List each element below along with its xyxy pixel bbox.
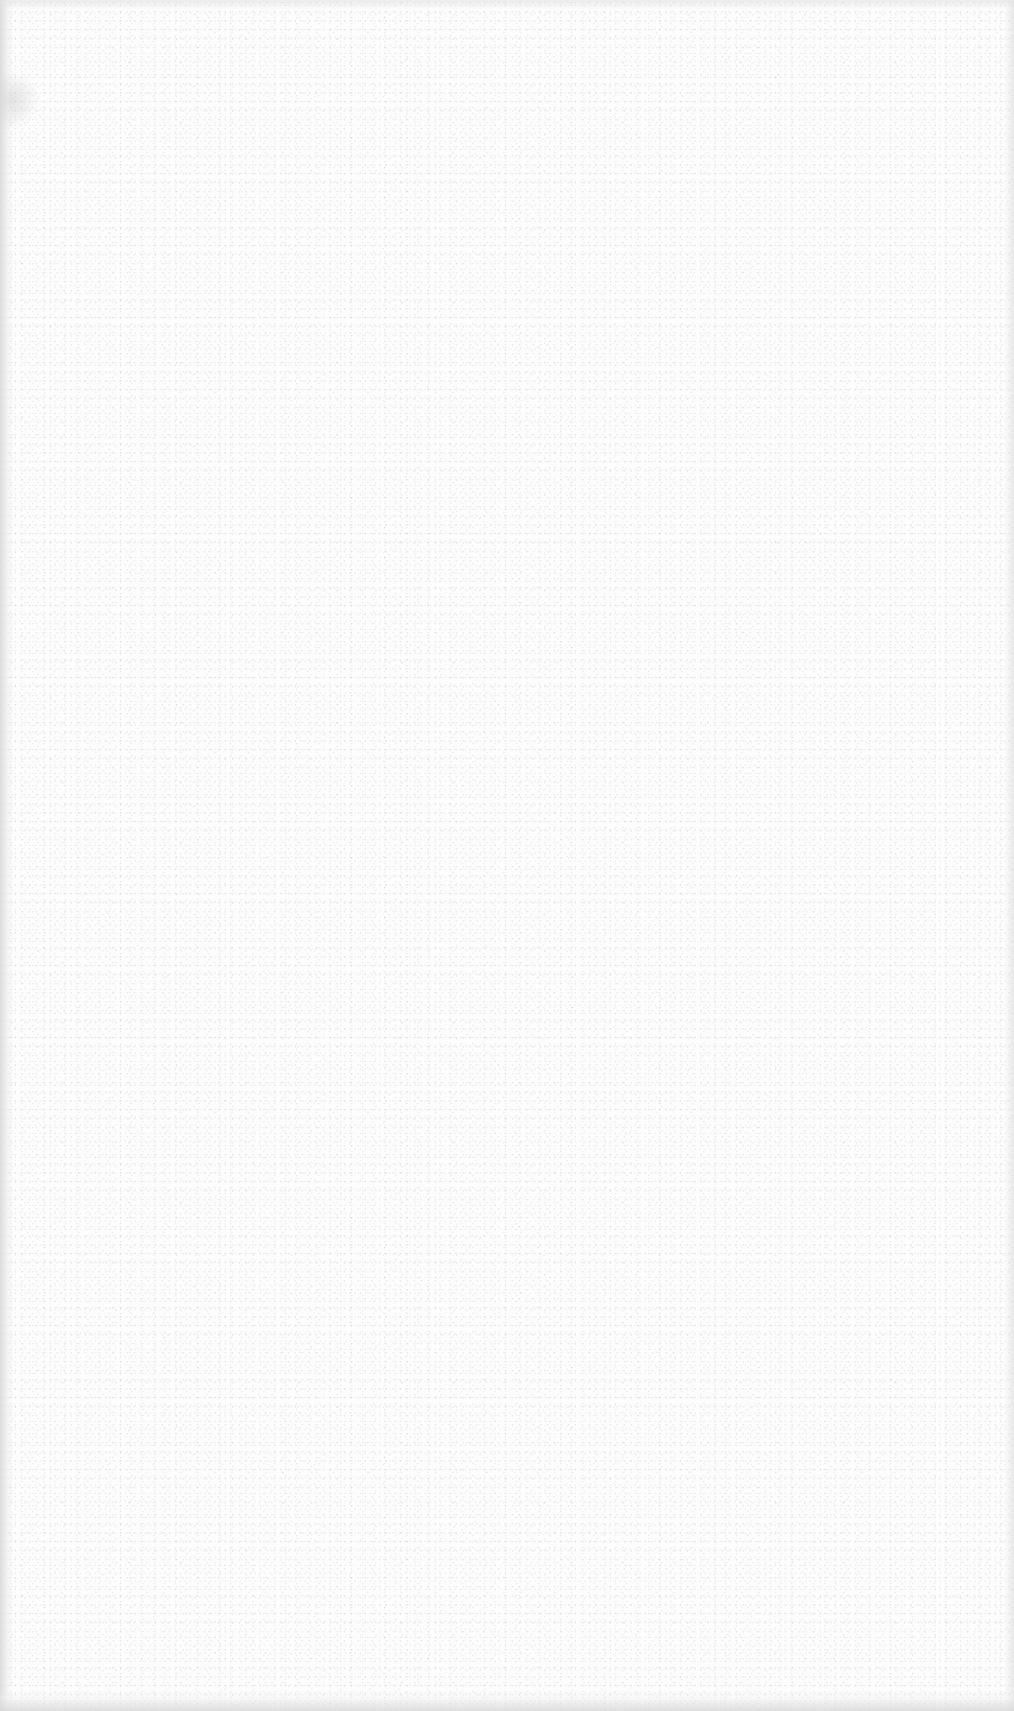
scan-edge-bottom — [0, 1689, 1014, 1711]
scan-edge-top — [0, 0, 1014, 10]
scan-edge-left — [0, 0, 14, 1711]
blank-scanned-page — [0, 0, 1014, 1711]
scan-edge-right — [1004, 0, 1014, 1711]
paper-speckle-texture-secondary — [0, 0, 1014, 1711]
